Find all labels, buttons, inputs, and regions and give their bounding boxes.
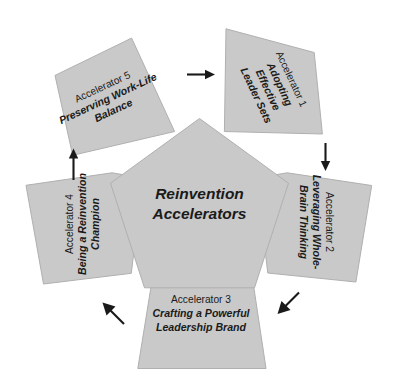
petal-number-accelerator-3: Accelerator 3 — [171, 294, 231, 305]
arrow-5-to-1-head — [205, 70, 215, 79]
arrow-5-to-1 — [187, 70, 215, 79]
petal-number-accelerator-2: Accelerator 2 — [324, 192, 335, 252]
center-title-line-2: Accelerators — [152, 205, 247, 222]
petal-title-line-1-accelerator-3: Crafting a Powerful — [152, 307, 250, 319]
arrow-2-to-3 — [278, 293, 300, 315]
petal-title-line-2-accelerator-4: Champion — [89, 198, 101, 250]
petal-title-line-1-accelerator-2: Leveraging Whole- — [311, 175, 323, 270]
petal-title-line-2-accelerator-2: Brain Thinking — [298, 185, 310, 260]
center-pentagon[interactable]: Reinvention Accelerators — [111, 119, 289, 288]
petal-number-accelerator-4: Accelerator 4 — [64, 194, 75, 254]
petal-title-line-1-accelerator-4: Being a Reinvention — [76, 173, 88, 275]
petal-accelerator-5[interactable]: Accelerator 5 Preserving Work-Life Balan… — [52, 38, 175, 155]
petal-title-line-2-accelerator-3: Leadership Brand — [156, 321, 247, 333]
center-title-line-1: Reinvention — [155, 185, 244, 202]
arrow-1-to-2-head — [321, 161, 330, 171]
reinvention-accelerators-diagram: Accelerator 5 Preserving Work-Life Balan… — [0, 0, 399, 384]
center-pentagon-shape — [111, 119, 289, 288]
arrow-3-to-4 — [103, 303, 125, 325]
petal-accelerator-1[interactable]: Accelerator 1 Adopting Effective Leader … — [224, 29, 322, 134]
arrow-1-to-2 — [321, 143, 330, 171]
diagram-canvas: Accelerator 5 Preserving Work-Life Balan… — [0, 0, 399, 384]
